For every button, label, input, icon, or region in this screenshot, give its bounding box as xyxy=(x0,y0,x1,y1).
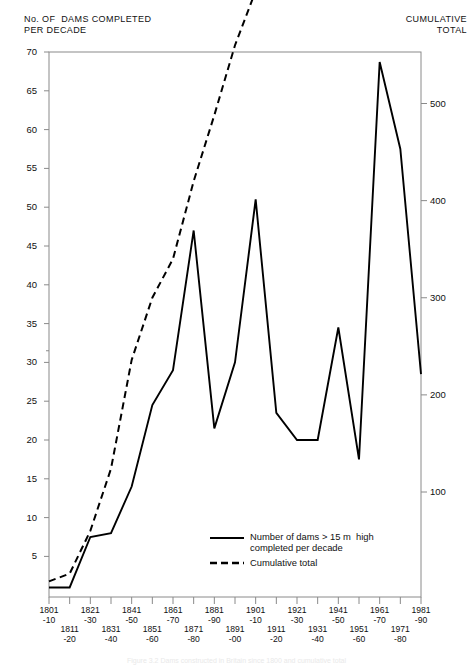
x-tick-label-lower-6: 1931 -40 xyxy=(297,625,339,644)
figure-caption: Figure 3.2 Dams constructed in Britain s… xyxy=(0,657,473,664)
x-tick-label-upper-6: 1921 -30 xyxy=(276,606,318,625)
x-tick-label-upper-1: 1821 -30 xyxy=(69,606,111,625)
left-tick-label-55: 55 xyxy=(15,162,37,173)
series-line-dams-per-decade xyxy=(49,62,421,587)
right-tick-label-200: 200 xyxy=(430,389,460,400)
left-tick-label-10: 10 xyxy=(15,512,37,523)
left-tick-label-70: 70 xyxy=(15,46,37,57)
x-tick-label-upper-3: 1861 -70 xyxy=(152,606,194,625)
x-tick-label-lower-2: 1851 -60 xyxy=(131,625,173,644)
left-axis-ticks xyxy=(44,52,49,556)
left-tick-label-50: 50 xyxy=(15,201,37,212)
left-tick-label-35: 35 xyxy=(15,318,37,329)
x-tick-label-upper-0: 1801 -10 xyxy=(28,606,70,625)
x-tick-label-upper-4: 1881 -90 xyxy=(193,606,235,625)
legend-label-dams-per-decade: Number of dams > 15 m high completed per… xyxy=(250,531,374,553)
left-tick-label-5: 5 xyxy=(15,550,37,561)
series-line-cumulative-total xyxy=(49,0,421,581)
right-tick-label-100: 100 xyxy=(430,486,460,497)
right-tick-label-400: 400 xyxy=(430,195,460,206)
left-tick-label-30: 30 xyxy=(15,356,37,367)
left-tick-label-45: 45 xyxy=(15,240,37,251)
right-axis-ticks xyxy=(421,104,427,493)
chart-figure: No. OF DAMS COMPLETED PER DECADE CUMULAT… xyxy=(0,0,473,666)
x-tick-label-lower-1: 1831 -40 xyxy=(90,625,132,644)
x-tick-label-lower-5: 1911 -20 xyxy=(255,625,297,644)
x-tick-label-upper-2: 1841 -50 xyxy=(111,606,153,625)
x-tick-label-lower-3: 1871 -80 xyxy=(173,625,215,644)
legend-label-cumulative-total: Cumulative total xyxy=(250,557,317,568)
left-tick-label-40: 40 xyxy=(15,279,37,290)
x-tick-label-lower-4: 1891 -00 xyxy=(214,625,256,644)
left-axis-title: No. OF DAMS COMPLETED PER DECADE xyxy=(24,14,151,36)
right-axis-title: CUMULATIVE TOTAL xyxy=(406,14,467,36)
left-tick-label-20: 20 xyxy=(15,434,37,445)
plot-area xyxy=(0,0,473,666)
left-tick-label-60: 60 xyxy=(15,124,37,135)
x-tick-label-upper-9: 1981 -90 xyxy=(400,606,442,625)
left-tick-label-65: 65 xyxy=(15,85,37,96)
x-tick-label-lower-0: 1811 -20 xyxy=(49,625,91,644)
x-tick-label-lower-8: 1971 -80 xyxy=(379,625,421,644)
x-tick-label-upper-7: 1941 -50 xyxy=(317,606,359,625)
x-tick-label-upper-8: 1961 -70 xyxy=(359,606,401,625)
x-tick-label-upper-5: 1901 -10 xyxy=(235,606,277,625)
x-axis-ticks xyxy=(49,597,421,604)
right-tick-label-300: 300 xyxy=(430,292,460,303)
left-tick-label-15: 15 xyxy=(15,473,37,484)
left-tick-label-25: 25 xyxy=(15,395,37,406)
x-tick-label-lower-7: 1951 -60 xyxy=(338,625,380,644)
right-tick-label-500: 500 xyxy=(430,98,460,109)
